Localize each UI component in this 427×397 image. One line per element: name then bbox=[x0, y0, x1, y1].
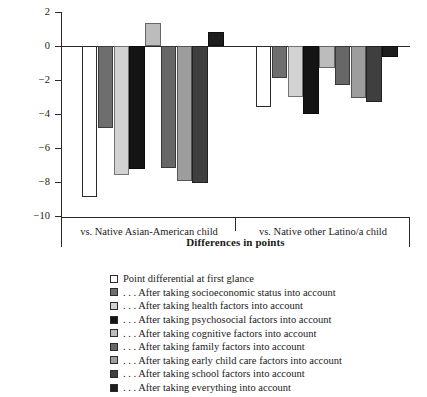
legend-item: Point differential at first glance bbox=[110, 272, 410, 286]
legend-item: . . . After taking cognitive factors int… bbox=[110, 326, 410, 340]
legend-label: . . . After taking health factors into a… bbox=[123, 300, 303, 311]
legend-label: . . . After taking socioeconomic status … bbox=[123, 287, 336, 298]
legend-label: . . . After taking school factors into a… bbox=[123, 368, 305, 379]
legend-label: . . . After taking cognitive factors int… bbox=[123, 328, 316, 339]
legend-swatch-icon bbox=[110, 302, 118, 310]
legend-swatch-icon bbox=[110, 316, 118, 324]
y-tick-label: −4 bbox=[22, 109, 50, 119]
legend-swatch-icon bbox=[110, 288, 118, 296]
plot-area bbox=[62, 12, 410, 216]
x-axis-title: Differences in points bbox=[61, 236, 410, 248]
legend-label: Point differential at first glance bbox=[123, 273, 254, 284]
y-tick-label: −6 bbox=[22, 143, 50, 153]
legend-swatch-icon bbox=[110, 343, 118, 351]
legend-item: . . . After taking family factors into a… bbox=[110, 340, 410, 354]
bar bbox=[288, 46, 303, 97]
bars-layer bbox=[62, 12, 410, 216]
bar bbox=[82, 46, 97, 197]
legend-swatch-icon bbox=[110, 384, 118, 392]
bar bbox=[303, 46, 318, 114]
bar-chart: 20−2−4−6−8−10 vs. Native Asian-American … bbox=[0, 0, 427, 397]
legend-item: . . . After taking school factors into a… bbox=[110, 367, 410, 381]
y-tick-label: −10 bbox=[22, 211, 50, 221]
bar bbox=[145, 23, 160, 46]
y-tick bbox=[55, 12, 62, 13]
legend-item: . . . After taking socioeconomic status … bbox=[110, 286, 410, 300]
legend-item: . . . After taking everything into accou… bbox=[110, 381, 410, 395]
legend-label: . . . After taking family factors into a… bbox=[123, 341, 305, 352]
legend-swatch-icon bbox=[110, 370, 118, 378]
legend-label: . . . After taking psychosocial factors … bbox=[123, 314, 331, 325]
y-tick bbox=[55, 114, 62, 115]
legend-item: . . . After taking early child care fact… bbox=[110, 354, 410, 368]
bar bbox=[98, 46, 113, 128]
legend-item: . . . After taking health factors into a… bbox=[110, 299, 410, 313]
y-tick bbox=[55, 46, 62, 47]
y-tick bbox=[55, 148, 62, 149]
legend-swatch-icon bbox=[110, 329, 118, 337]
bar bbox=[256, 46, 271, 107]
y-tick-label: 0 bbox=[22, 41, 50, 51]
y-tick-label: −2 bbox=[22, 75, 50, 85]
y-tick bbox=[55, 80, 62, 81]
bar bbox=[382, 46, 397, 57]
bar bbox=[351, 46, 366, 98]
legend-swatch-icon bbox=[110, 356, 118, 364]
bar bbox=[366, 46, 381, 102]
bar bbox=[114, 46, 129, 175]
y-tick-label: 2 bbox=[22, 7, 50, 17]
legend-label: . . . After taking everything into accou… bbox=[123, 382, 291, 393]
legend-item: . . . After taking psychosocial factors … bbox=[110, 313, 410, 327]
bar bbox=[192, 46, 207, 183]
legend-label: . . . After taking early child care fact… bbox=[123, 355, 342, 366]
y-tick-label: −8 bbox=[22, 177, 50, 187]
bar bbox=[129, 46, 144, 169]
bar bbox=[319, 46, 334, 68]
bar bbox=[272, 46, 287, 78]
bar bbox=[208, 32, 223, 46]
bar bbox=[177, 46, 192, 181]
chart-legend: Point differential at first glance. . . … bbox=[110, 272, 410, 394]
bar bbox=[161, 46, 176, 168]
legend-swatch-icon bbox=[110, 275, 118, 283]
y-tick bbox=[55, 182, 62, 183]
bar bbox=[335, 46, 350, 85]
